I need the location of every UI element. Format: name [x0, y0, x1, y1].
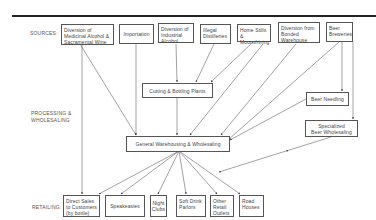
source-bonded-warehouse: Diversion from Bonded Warehouse [278, 22, 320, 43]
source-industrial-alcohol: Diversion of Industrial Alcohol [158, 23, 194, 43]
cutting-bottling-plants: Cutting & Bottling Plants [142, 83, 213, 98]
source-medicinal-alcohol: Diversion of Medicinal Alcohol & Sacrame… [61, 24, 114, 45]
alcohol-distribution-diagram: SOURCES: PROCESSING & WHOLESALING RETAIL… [0, 0, 376, 220]
section-label-processing: PROCESSING & WHOLESALING [31, 110, 71, 124]
source-importation: Importation [119, 24, 154, 44]
retail-direct-sales: Direct Sales to Customers (by bottle) [63, 195, 100, 217]
section-label-sources: SOURCES: [30, 30, 58, 37]
specialized-beer-wholesaling: Specialized Beer Wholesaling [305, 120, 358, 137]
retail-soft-drink-parlors: Soft Drink Parlors [176, 195, 206, 217]
section-label-retailing: RETAILING: [32, 204, 61, 211]
source-illegal-distilleries: Illegal Distilleries [200, 24, 231, 44]
general-warehousing-wholesaling: General Warehousing & Wholesaling [126, 136, 230, 152]
source-home-stills: Home Stills & Moonshining [237, 24, 271, 42]
retail-speakeasies: Speakeasies [105, 195, 145, 217]
retail-night-clubs: Night Clubs [150, 195, 167, 217]
retail-other-outlets: Other Retail Outlets [210, 195, 234, 217]
retail-road-houses: Road Houses [239, 195, 264, 217]
source-beer-breweries: Beer Breweries [326, 22, 353, 42]
beer-needling: Beer Needling [306, 92, 349, 106]
